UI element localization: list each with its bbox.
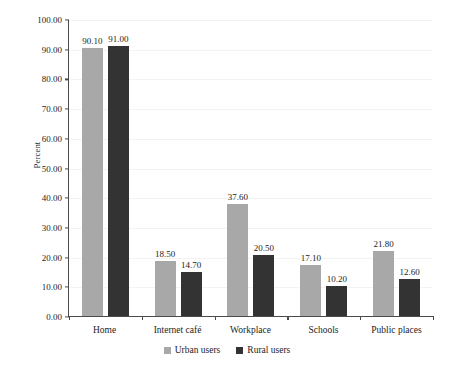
y-tick-label: 30.00 <box>2 223 69 233</box>
bar[interactable] <box>373 251 394 316</box>
x-axis-labels: HomeInternet caféWorkplaceSchoolsPublic … <box>68 325 433 335</box>
bar-column: 37.60 <box>227 20 248 316</box>
bar-value-label: 37.60 <box>228 192 248 202</box>
bar-value-label: 90.10 <box>82 36 102 46</box>
bar-value-label: 17.10 <box>301 253 321 263</box>
bar-group: 17.1010.20 <box>287 20 360 316</box>
y-tick-label: 80.00 <box>2 74 69 84</box>
legend-swatch <box>164 347 171 354</box>
plot-area: 100.0090.0080.0070.0060.0050.0040.0030.0… <box>68 20 433 317</box>
y-axis-title: Percent <box>32 120 42 190</box>
bar-chart: Percent 100.0090.0080.0070.0060.0050.004… <box>0 0 454 371</box>
bar-value-label: 12.60 <box>399 267 419 277</box>
x-axis-label: Internet café <box>141 325 214 335</box>
bar-group: 37.6020.50 <box>215 20 288 316</box>
bar-column: 17.10 <box>300 20 321 316</box>
bar-column: 20.50 <box>253 20 274 316</box>
bar[interactable] <box>399 279 420 316</box>
y-tick-label: 90.00 <box>2 45 69 55</box>
chart-legend: Urban usersRural users <box>0 345 454 355</box>
bar-group-bars: 17.1010.20 <box>287 20 360 316</box>
y-tick-label: 60.00 <box>2 134 69 144</box>
bar[interactable] <box>108 46 129 316</box>
x-tick-mark <box>433 316 434 320</box>
bar[interactable] <box>300 265 321 316</box>
bar-column: 14.70 <box>181 20 202 316</box>
bar[interactable] <box>82 48 103 316</box>
bar[interactable] <box>227 204 248 316</box>
x-tick-mark <box>287 316 288 320</box>
bar[interactable] <box>253 255 274 316</box>
y-tick-label: 40.00 <box>2 193 69 203</box>
legend-item[interactable]: Rural users <box>236 345 290 355</box>
x-tick-mark <box>142 316 143 320</box>
y-tick-label: 20.00 <box>2 253 69 263</box>
bar-group-bars: 90.1091.00 <box>69 20 142 316</box>
bar[interactable] <box>326 286 347 316</box>
y-tick-label: 10.00 <box>2 282 69 292</box>
bar-column: 10.20 <box>326 20 347 316</box>
y-tick-label: 0.00 <box>2 312 69 322</box>
bar-value-label: 14.70 <box>181 260 201 270</box>
bar-group-bars: 18.5014.70 <box>142 20 215 316</box>
bar[interactable] <box>155 261 176 316</box>
bar-column: 21.80 <box>373 20 394 316</box>
x-tick-mark <box>215 316 216 320</box>
bar-column: 12.60 <box>399 20 420 316</box>
bar-group-bars: 37.6020.50 <box>215 20 288 316</box>
bar-value-label: 10.20 <box>327 274 347 284</box>
bar-value-label: 18.50 <box>155 249 175 259</box>
y-tick-label: 50.00 <box>2 164 69 174</box>
bar-group-bars: 21.8012.60 <box>360 20 433 316</box>
bar-groups: 90.1091.0018.5014.7037.6020.5017.1010.20… <box>69 20 433 316</box>
legend-item[interactable]: Urban users <box>164 345 221 355</box>
bar-value-label: 91.00 <box>108 34 128 44</box>
x-tick-mark <box>360 316 361 320</box>
bar-column: 91.00 <box>108 20 129 316</box>
bar-group: 90.1091.00 <box>69 20 142 316</box>
bar-group: 21.8012.60 <box>360 20 433 316</box>
bar-column: 90.10 <box>82 20 103 316</box>
x-axis-label: Public places <box>360 325 433 335</box>
x-axis-label: Home <box>68 325 141 335</box>
x-axis-label: Schools <box>287 325 360 335</box>
x-tick-mark <box>69 316 70 320</box>
bar-group: 18.5014.70 <box>142 20 215 316</box>
bar-value-label: 21.80 <box>373 239 393 249</box>
bar-value-label: 20.50 <box>254 243 274 253</box>
x-axis-label: Workplace <box>214 325 287 335</box>
bar[interactable] <box>181 272 202 316</box>
y-tick-label: 100.00 <box>2 15 69 25</box>
legend-label: Rural users <box>247 345 290 355</box>
legend-label: Urban users <box>175 345 221 355</box>
legend-swatch <box>236 347 243 354</box>
y-tick-label: 70.00 <box>2 104 69 114</box>
bar-column: 18.50 <box>155 20 176 316</box>
